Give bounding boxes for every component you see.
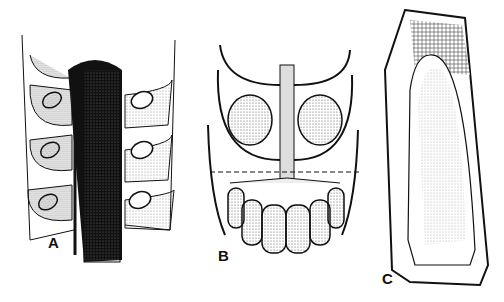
panel-b-label: B [218, 247, 229, 264]
panel-a-label: A [48, 234, 59, 251]
panel-c-drawing [370, 0, 504, 302]
panel-a-drawing [0, 0, 180, 302]
panel-a: A [0, 0, 180, 302]
panel-b-drawing [180, 0, 370, 302]
panel-b: B [180, 0, 370, 302]
panel-c-label: C [382, 270, 393, 287]
panel-c: C [370, 0, 504, 302]
